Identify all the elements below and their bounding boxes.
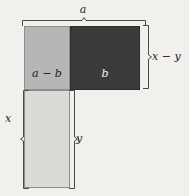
dimension-label-x-minus-y: x − y bbox=[152, 51, 181, 62]
region-label-b: b bbox=[70, 68, 140, 79]
region-a-minus-b bbox=[24, 26, 70, 90]
region-y-column bbox=[24, 90, 70, 188]
brace-bracket-icon-left bbox=[20, 89, 30, 191]
brace-bracket-icon-top bbox=[21, 17, 147, 27]
region-label-a-minus-b: a − b bbox=[24, 68, 70, 79]
dimension-label-y: y bbox=[76, 133, 82, 144]
brace-bracket-icon-right-upper bbox=[142, 24, 152, 92]
dimension-label-a: a bbox=[72, 4, 94, 15]
geometry-diagram: a − b b a x − y x y bbox=[0, 0, 189, 196]
region-b bbox=[70, 26, 140, 90]
dimension-label-x: x bbox=[5, 113, 11, 124]
